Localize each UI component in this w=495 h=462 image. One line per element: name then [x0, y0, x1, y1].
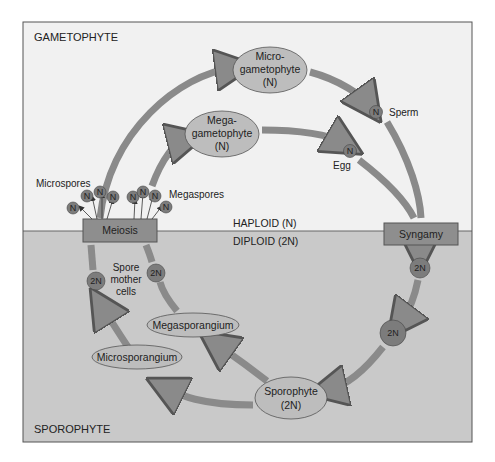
megaspores-label: Megaspores — [169, 189, 224, 200]
microspore-cell: N — [67, 202, 79, 214]
svg-text:Megasporangium: Megasporangium — [152, 319, 233, 331]
life-cycle-diagram: GAMETOPHYTE SPOROPHYTE HAPLOID (N) DIPLO… — [0, 0, 495, 462]
megagametophyte-node: Mega- gametophyte (N) — [185, 111, 259, 157]
zygote-cell: 2N — [410, 258, 430, 278]
svg-text:2N: 2N — [387, 328, 399, 338]
microspores-label: Microspores — [36, 178, 90, 189]
svg-text:(N): (N) — [215, 140, 230, 152]
micro-spore-mother-cell: 2N — [87, 272, 105, 290]
sporophyte-node: Sporophyte (2N) — [255, 377, 327, 419]
svg-text:2N: 2N — [414, 263, 426, 273]
megaspore-cell: N — [160, 201, 172, 213]
meiosis-label: Meiosis — [102, 224, 138, 236]
syngamy-box: Syngamy — [384, 223, 458, 245]
sperm-label: Sperm — [389, 107, 418, 118]
sporophyte-label: SPOROPHYTE — [34, 423, 110, 435]
megasporangium-node: Megasporangium — [147, 313, 239, 337]
microspore-cell: N — [81, 190, 93, 202]
svg-text:2N: 2N — [150, 268, 162, 278]
svg-text:N: N — [97, 187, 104, 197]
haploid-label: HAPLOID (N) — [233, 217, 297, 229]
svg-text:N: N — [140, 187, 147, 197]
svg-text:N: N — [152, 191, 159, 201]
megaspore-cell: N — [149, 190, 161, 202]
svg-text:N: N — [130, 192, 137, 202]
svg-text:N: N — [84, 191, 91, 201]
egg-label: Egg — [333, 160, 351, 171]
spore-mother-cells-label-3: cells — [116, 286, 136, 297]
svg-text:N: N — [70, 203, 77, 213]
embryo-cell: 2N — [380, 320, 406, 346]
spore-mother-cells-label-1: Spore — [113, 262, 140, 273]
svg-text:gametophyte: gametophyte — [192, 127, 253, 139]
spore-mother-cells-label-2: mother — [110, 274, 142, 285]
microsporangium-node: Microsporangium — [92, 345, 182, 369]
gametophyte-label: GAMETOPHYTE — [34, 31, 118, 43]
svg-text:gametophyte: gametophyte — [240, 63, 301, 75]
svg-text:N: N — [373, 107, 380, 117]
megaspore-cell: N — [137, 186, 149, 198]
microgametophyte-node: Micro- gametophyte (N) — [233, 47, 307, 93]
svg-text:(N): (N) — [263, 76, 278, 88]
egg-cell: N — [344, 145, 357, 158]
microspore-cell: N — [107, 191, 119, 203]
svg-text:Micro-: Micro- — [255, 50, 285, 62]
meiosis-box: Meiosis — [83, 219, 157, 242]
svg-text:(2N): (2N) — [281, 399, 301, 411]
sperm-cell: N — [370, 106, 383, 119]
mega-spore-mother-cell: 2N — [147, 264, 165, 282]
svg-text:N: N — [347, 146, 354, 156]
diploid-label: DIPLOID (2N) — [233, 235, 298, 247]
arrow-mother-cell-to-meiosis-micro — [91, 245, 93, 270]
syngamy-label: Syngamy — [399, 228, 444, 240]
svg-text:N: N — [163, 202, 170, 212]
svg-text:Mega-: Mega- — [207, 114, 237, 126]
svg-text:2N: 2N — [90, 276, 102, 286]
svg-text:Sporophyte: Sporophyte — [264, 385, 318, 397]
svg-text:Microsporangium: Microsporangium — [97, 351, 178, 363]
microspore-cell: N — [94, 186, 106, 198]
svg-text:N: N — [110, 192, 117, 202]
